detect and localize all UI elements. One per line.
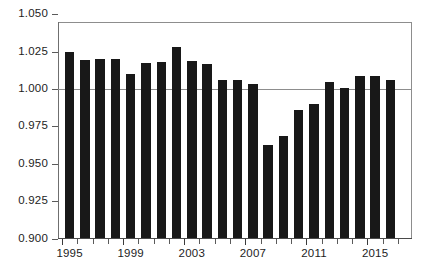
bar-2005 xyxy=(218,80,227,238)
x-tick-mark xyxy=(62,239,63,245)
y-tick-label: 0.900 xyxy=(0,233,48,244)
y-tick-label: 0.950 xyxy=(0,158,48,169)
x-tick-mark xyxy=(291,239,292,244)
x-tick-mark xyxy=(169,239,170,244)
y-tick-label: 1.025 xyxy=(0,46,48,57)
x-axis-spine xyxy=(58,238,412,239)
x-tick-label: 2015 xyxy=(345,247,405,259)
x-tick-label: 2011 xyxy=(284,247,344,259)
y-tick-label: 1.000 xyxy=(0,83,48,94)
x-tick-label: 1995 xyxy=(40,247,100,259)
bar-1998 xyxy=(111,59,120,238)
x-tick-mark xyxy=(383,239,384,244)
x-tick-mark xyxy=(261,239,262,244)
bar-2016 xyxy=(386,80,395,238)
x-tick-mark xyxy=(77,239,78,244)
y-tick-mark xyxy=(52,239,58,240)
x-tick-mark xyxy=(138,239,139,244)
x-tick-label: 2007 xyxy=(223,247,283,259)
x-tick-label: 2003 xyxy=(162,247,222,259)
y-axis-spine xyxy=(58,22,59,239)
y-tick-mark xyxy=(52,126,58,127)
bar-2009 xyxy=(279,136,288,238)
x-tick-mark xyxy=(337,239,338,244)
bar-2010 xyxy=(294,110,303,238)
x-tick-mark xyxy=(199,239,200,244)
x-tick-mark xyxy=(367,239,368,245)
x-tick-mark xyxy=(123,239,124,245)
bar-1995 xyxy=(65,52,74,238)
y-tick-mark xyxy=(52,14,58,15)
bar-2002 xyxy=(172,47,181,238)
y-tick-label: 1.050 xyxy=(0,8,48,19)
bar-1996 xyxy=(80,60,89,238)
y-tick-mark xyxy=(52,164,58,165)
bar-2015 xyxy=(370,76,379,238)
bar-2003 xyxy=(187,61,196,238)
x-tick-label: 1999 xyxy=(101,247,161,259)
y-tick-label: 0.925 xyxy=(0,195,48,206)
bar-2004 xyxy=(202,64,211,238)
bar-2012 xyxy=(325,82,334,238)
y-tick-mark xyxy=(52,201,58,202)
bar-2007 xyxy=(248,84,257,238)
x-tick-mark xyxy=(276,239,277,244)
bar-1999 xyxy=(126,74,135,238)
x-tick-mark xyxy=(108,239,109,244)
bar-2014 xyxy=(355,76,364,238)
chart-canvas: 1.0501.0251.0000.9750.9500.9250.900 1995… xyxy=(0,0,433,273)
x-tick-mark xyxy=(322,239,323,244)
x-tick-mark xyxy=(154,239,155,244)
bar-2001 xyxy=(157,62,166,238)
x-tick-mark xyxy=(230,239,231,244)
bar-2000 xyxy=(141,63,150,238)
x-tick-mark xyxy=(398,239,399,244)
bar-2011 xyxy=(309,104,318,238)
bar-2008 xyxy=(263,145,272,238)
bar-2013 xyxy=(340,88,349,238)
x-tick-mark xyxy=(184,239,185,245)
y-tick-mark xyxy=(52,52,58,53)
bar-2006 xyxy=(233,80,242,238)
y-tick-label: 0.975 xyxy=(0,120,48,131)
x-tick-mark xyxy=(215,239,216,244)
x-tick-mark xyxy=(245,239,246,245)
bar-1997 xyxy=(95,59,104,238)
x-tick-mark xyxy=(352,239,353,244)
x-tick-mark xyxy=(93,239,94,244)
x-tick-mark xyxy=(306,239,307,245)
